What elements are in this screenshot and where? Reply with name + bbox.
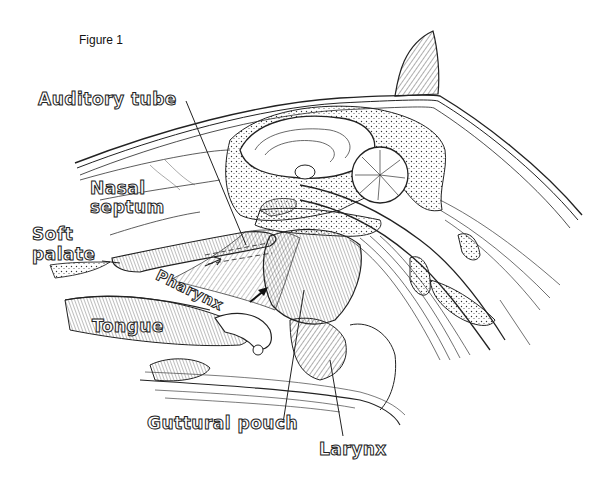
label-soft-palate-line1: Soft (32, 226, 73, 243)
label-soft-palate-line2: palate (32, 246, 96, 263)
cerebellum (352, 147, 408, 203)
label-nasal-septum-line1: Nasal (90, 180, 146, 197)
label-nasal-septum-line2: septum (90, 199, 165, 216)
neck-muscles (350, 200, 560, 360)
ear (395, 31, 439, 96)
label-guttural-pouch: Guttural pouch (147, 415, 298, 432)
label-larynx: Larynx (319, 441, 387, 458)
label-auditory-tube: Auditory tube (38, 91, 177, 108)
guttural-pouch (263, 230, 361, 325)
label-tongue: Tongue (92, 318, 164, 335)
